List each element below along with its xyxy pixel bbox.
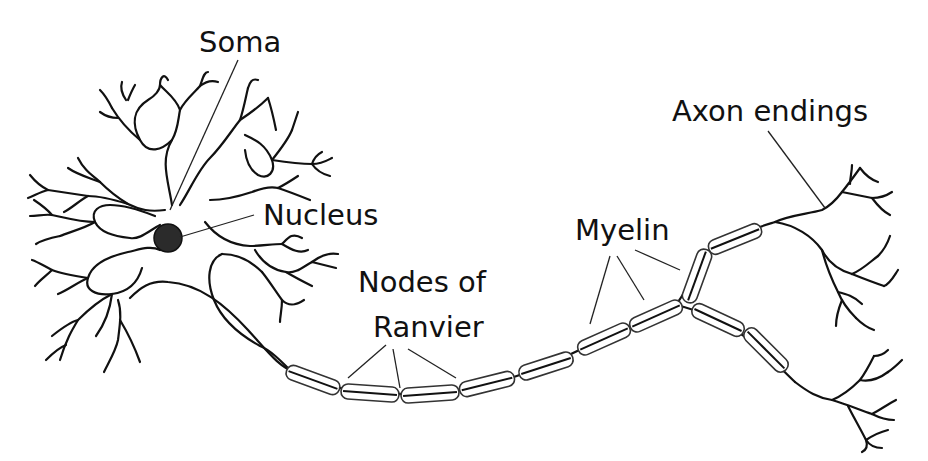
nodes-leader-3 — [408, 349, 456, 378]
neuron-diagram: Soma Nucleus Nodes of Ranvier Myelin Axo… — [0, 0, 928, 461]
labels: Soma Nucleus Nodes of Ranvier Myelin Axo… — [199, 25, 868, 344]
label-nodes-of: Nodes of — [358, 265, 487, 299]
soma — [130, 254, 295, 372]
axon-terminals — [775, 165, 902, 452]
nodes-leader-2 — [393, 349, 400, 388]
label-myelin: Myelin — [575, 213, 670, 247]
myelin-leader-2 — [617, 256, 644, 300]
nodes-leader-1 — [348, 345, 386, 378]
nucleus — [154, 224, 182, 252]
label-axon-endings: Axon endings — [672, 94, 868, 128]
label-ranvier: Ranvier — [373, 310, 484, 344]
label-nucleus: Nucleus — [263, 198, 378, 232]
myelin-leader-3 — [635, 250, 680, 270]
axon-core — [748, 332, 785, 369]
axon-endings-leader — [768, 131, 825, 208]
label-soma: Soma — [199, 25, 281, 59]
myelin-sheath — [284, 222, 791, 404]
myelin-leader-1 — [590, 256, 610, 324]
